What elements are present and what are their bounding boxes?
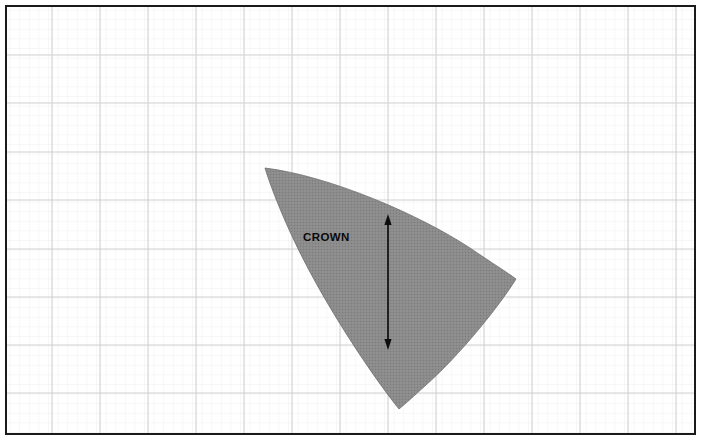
grid-layer — [7, 7, 694, 433]
crown-label: CROWN — [303, 232, 350, 244]
figure-canvas — [0, 0, 703, 441]
crown-figure: CROWN — [0, 0, 703, 441]
